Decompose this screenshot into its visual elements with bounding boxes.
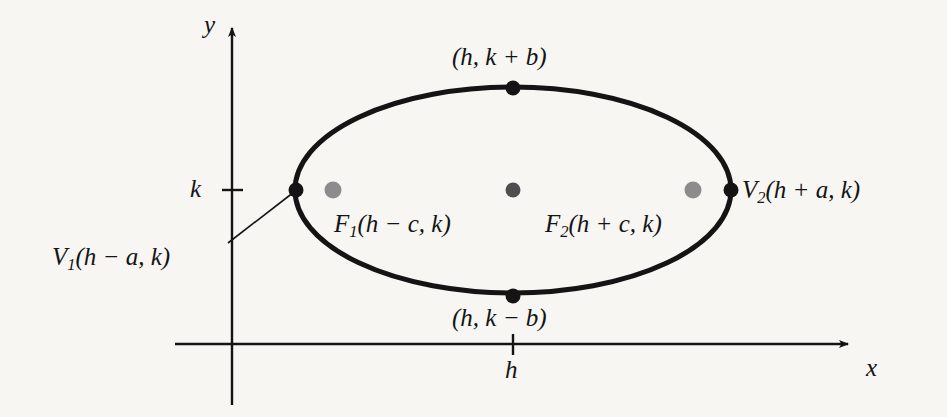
focus-right-label: F2(h + c, k) [545, 211, 662, 240]
y-axis-tick-label-k: k [190, 176, 201, 201]
focus-right-index: 2 [560, 222, 568, 241]
vertex-right-coords: (h + a, k) [766, 176, 861, 203]
figure-canvas: y x k h (h, k + b) (h, k − b) V1(h − a, … [0, 0, 947, 417]
focus-right-symbol: F [545, 210, 560, 237]
focus-right-dot [685, 182, 702, 199]
center-dot [506, 183, 521, 198]
vertex-right-index: 2 [757, 188, 765, 207]
y-axis-label: y [204, 12, 215, 37]
vertex-left-symbol: V [52, 243, 67, 270]
focus-left-dot [325, 182, 342, 199]
focus-left-index: 1 [349, 222, 357, 241]
vertex-left-leader-line [228, 192, 294, 243]
x-axis-label: x [866, 355, 877, 380]
covertex-top-label: (h, k + b) [452, 44, 547, 69]
vertex-left-label: V1(h − a, k) [52, 244, 170, 273]
vertex-right-label: V2(h + a, k) [742, 177, 860, 206]
vertex-right-symbol: V [742, 176, 757, 203]
vertex-right-dot [724, 183, 739, 198]
focus-left-label: F1(h − c, k) [334, 211, 451, 240]
focus-left-symbol: F [334, 210, 349, 237]
x-axis-tick-label-h: h [505, 357, 518, 382]
vertex-left-dot [289, 183, 304, 198]
vertex-left-coords: (h − a, k) [76, 243, 171, 270]
focus-right-coords: (h + c, k) [569, 210, 662, 237]
covertex-bottom-dot [506, 289, 521, 304]
focus-left-coords: (h − c, k) [358, 210, 451, 237]
covertex-top-dot [506, 81, 521, 96]
covertex-bottom-label: (h, k − b) [452, 305, 547, 330]
vertex-left-index: 1 [67, 255, 75, 274]
